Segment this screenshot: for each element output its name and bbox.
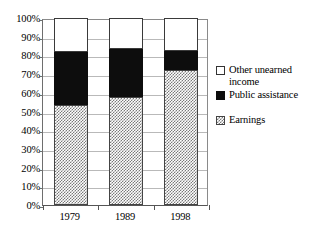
legend-swatch-icon — [216, 116, 225, 125]
y-axis-tick-label: 0% — [0, 201, 40, 211]
legend-swatch-icon — [216, 91, 225, 100]
legend-item-label: Earnings — [229, 114, 265, 126]
y-axis-tick-mark — [39, 39, 43, 40]
legend-item-public-assistance: Public assistance — [216, 89, 320, 101]
bar-segment-other-unearned-income — [164, 18, 198, 51]
y-axis-tick-label: 10% — [0, 182, 40, 192]
y-axis-tick-mark — [39, 76, 43, 77]
y-axis-tick-mark — [39, 114, 43, 115]
legend-swatch-icon — [216, 66, 225, 75]
x-axis-tick-mark — [154, 205, 155, 210]
y-axis-tick-mark — [39, 20, 43, 21]
legend-item-earnings: Earnings — [216, 114, 320, 126]
bar-segment-public-assistance — [54, 52, 88, 105]
bar-segment-earnings — [54, 105, 88, 205]
x-axis-tick-label: 1979 — [40, 211, 100, 223]
legend-item-label: Public assistance — [229, 89, 298, 101]
x-axis-tick-mark — [98, 205, 99, 210]
plot-area — [42, 19, 208, 206]
y-axis-tick-label: 90% — [0, 33, 40, 43]
y-axis-tick-mark — [39, 95, 43, 96]
bar-segment-public-assistance — [164, 51, 198, 71]
y-axis-tick-mark — [39, 132, 43, 133]
legend-item-label: Other unearned income — [229, 64, 292, 87]
chart-legend: Other unearned incomePublic assistanceEa… — [216, 64, 320, 127]
bar-1979 — [54, 18, 88, 205]
y-axis-tick-labels: 0%10%20%30%40%50%60%70%80%90%100% — [0, 14, 40, 206]
y-axis-tick-label: 70% — [0, 70, 40, 80]
legend-item-other-unearned-income: Other unearned income — [216, 64, 320, 87]
bar-segment-earnings — [164, 70, 198, 205]
x-axis-tick-label: 1998 — [150, 211, 210, 223]
y-axis-tick-label: 100% — [0, 14, 40, 24]
y-axis-tick-label: 40% — [0, 126, 40, 136]
y-axis-tick-label: 60% — [0, 89, 40, 99]
bar-1998 — [164, 18, 198, 205]
bar-segment-other-unearned-income — [109, 18, 143, 49]
stacked-bar-chart: 0%10%20%30%40%50%60%70%80%90%100% 197919… — [0, 0, 320, 243]
x-axis-tick-mark — [43, 205, 44, 210]
y-axis-tick-label: 80% — [0, 51, 40, 61]
y-axis-tick-mark — [39, 57, 43, 58]
x-axis-tick-mark — [209, 205, 210, 210]
bar-segment-earnings — [109, 97, 143, 205]
y-axis-tick-mark — [39, 188, 43, 189]
y-axis-tick-mark — [39, 151, 43, 152]
y-axis-tick-label: 30% — [0, 145, 40, 155]
legend-spacer — [216, 103, 320, 114]
bar-segment-public-assistance — [109, 49, 143, 97]
y-axis-tick-label: 20% — [0, 164, 40, 174]
y-axis-tick-label: 50% — [0, 108, 40, 118]
y-axis-tick-mark — [39, 170, 43, 171]
bar-1989 — [109, 18, 143, 205]
x-axis-tick-labels: 197919891998 — [42, 211, 208, 229]
x-axis-tick-label: 1989 — [95, 211, 155, 223]
bar-segment-other-unearned-income — [54, 18, 88, 52]
